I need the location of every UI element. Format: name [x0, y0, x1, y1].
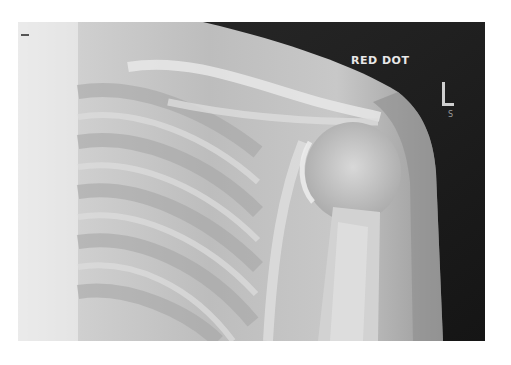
left-side-marker-icon	[442, 82, 454, 106]
xray-anatomy	[18, 22, 485, 341]
xray-image: RED DOT S	[18, 22, 485, 341]
corner-mark	[21, 34, 29, 36]
side-marker-sub: S	[448, 110, 453, 119]
red-dot-label: RED DOT	[351, 54, 409, 67]
